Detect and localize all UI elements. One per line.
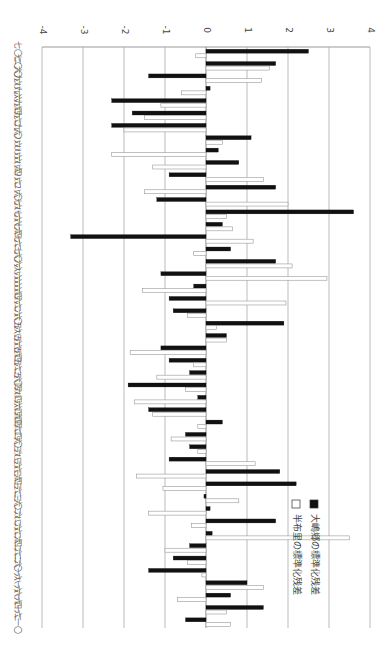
- bar-hanyu: [177, 598, 206, 602]
- bar-oshima: [206, 321, 284, 325]
- bar-oshima: [186, 618, 207, 622]
- bar-oshima: [206, 247, 231, 251]
- bar-hanyu: [206, 622, 231, 626]
- bar-hanyu: [206, 140, 222, 144]
- bar-oshima: [194, 284, 206, 288]
- bar-oshima: [169, 358, 206, 362]
- bar-oshima: [190, 544, 206, 548]
- legend-label: 大嶋郷の標準化残差: [310, 514, 321, 595]
- bar-oshima: [173, 556, 206, 560]
- bar-hanyu: [181, 91, 206, 95]
- bar-hanyu: [157, 375, 206, 379]
- bar-hanyu: [165, 548, 206, 552]
- axis-tick-label: -2: [120, 26, 130, 35]
- bar-hanyu: [202, 573, 206, 577]
- bar-oshima: [206, 259, 276, 263]
- bar-hanyu: [188, 561, 206, 565]
- bar-hanyu: [206, 326, 216, 330]
- bar-hanyu: [206, 264, 292, 268]
- axis-tick-label: 1: [243, 27, 253, 33]
- legend: 大嶋郷の標準化残差半布里の標準化残差: [292, 500, 321, 595]
- bar-hanyu: [206, 227, 233, 231]
- bar-oshima: [149, 408, 206, 412]
- bar-hanyu: [206, 610, 227, 614]
- bar-oshima: [206, 334, 227, 338]
- bar-hanyu: [206, 202, 288, 206]
- bar-oshima: [206, 519, 276, 523]
- bar-hanyu: [206, 585, 263, 589]
- bar-oshima: [206, 531, 212, 535]
- residual-bar-chart: -4-3-2-101234 七〇二七〇〇六九八六九六六九四六九二六九〇六八八六八…: [0, 0, 392, 671]
- bar-hanyu: [161, 103, 206, 107]
- bar-hanyu: [206, 79, 261, 83]
- bar-hanyu: [206, 66, 270, 70]
- bar-oshima: [173, 309, 206, 313]
- bar-hanyu: [130, 350, 206, 354]
- axis-tick-label: -1: [161, 26, 171, 35]
- bar-hanyu: [206, 239, 253, 243]
- bar-oshima: [128, 383, 206, 387]
- bar-hanyu: [206, 536, 350, 540]
- bar-oshima: [161, 272, 206, 276]
- bar-oshima: [206, 160, 239, 164]
- bar-hanyu: [206, 214, 227, 218]
- value-axis: -4-3-2-101234: [38, 26, 376, 35]
- bar-hanyu: [149, 511, 206, 515]
- bar-hanyu: [188, 313, 206, 317]
- bar-hanyu: [186, 388, 207, 392]
- bar-oshima: [71, 235, 206, 239]
- bar-hanyu: [198, 425, 206, 429]
- category-axis: 七〇二七〇〇六九八六九六六九四六九二六九〇六八八六八六六八四六八二六八〇六七八六…: [12, 41, 22, 634]
- bar-oshima: [112, 123, 206, 127]
- bar-hanyu: [196, 54, 206, 58]
- bar-hanyu: [136, 474, 206, 478]
- axis-tick-label: 3: [325, 27, 335, 33]
- bar-oshima: [190, 371, 206, 375]
- bar-oshima: [206, 420, 222, 424]
- bar-hanyu: [194, 252, 206, 256]
- axis-tick-label: 4: [366, 27, 376, 33]
- bar-hanyu: [206, 338, 227, 342]
- legend-swatch-black-icon: [310, 500, 318, 508]
- category-label: 六一〇: [13, 610, 23, 634]
- bar-hanyu: [198, 449, 206, 453]
- bar-oshima: [206, 136, 251, 140]
- bar-hanyu: [163, 486, 206, 490]
- bar-hanyu: [142, 289, 206, 293]
- bar-oshima: [206, 86, 210, 90]
- bar-oshima: [206, 62, 276, 66]
- bar-oshima: [206, 507, 210, 511]
- bar-hanyu: [124, 128, 206, 132]
- legend-swatch-white-icon: [292, 500, 300, 508]
- bar-hanyu: [134, 400, 206, 404]
- bar-oshima: [198, 395, 206, 399]
- bar-oshima: [112, 99, 206, 103]
- bar-oshima: [186, 432, 207, 436]
- bar-hanyu: [206, 462, 255, 466]
- bar-oshima: [206, 482, 296, 486]
- axis-tick-label: -3: [79, 26, 89, 35]
- bar-hanyu: [192, 524, 206, 528]
- bar-hanyu: [206, 499, 239, 503]
- bar-hanyu: [153, 412, 206, 416]
- bar-hanyu: [153, 165, 206, 169]
- bar-oshima: [190, 445, 206, 449]
- bar-oshima: [204, 494, 206, 498]
- axis-tick-label: -4: [38, 26, 48, 35]
- bar-oshima: [206, 148, 218, 152]
- bar-hanyu: [206, 276, 327, 280]
- legend-label: 半布里の標準化残差: [292, 514, 303, 595]
- bar-oshima: [206, 470, 280, 474]
- bar-hanyu: [206, 177, 263, 181]
- bar-oshima: [149, 568, 206, 572]
- bar-hanyu: [112, 153, 206, 157]
- bar-hanyu: [145, 190, 207, 194]
- axis-tick-label: 2: [284, 27, 294, 33]
- bar-oshima: [157, 198, 206, 202]
- bar-oshima: [206, 593, 231, 597]
- bar-oshima: [206, 210, 354, 214]
- bar-hanyu: [206, 301, 286, 305]
- bar-hanyu: [171, 437, 206, 441]
- bar-oshima: [149, 74, 206, 78]
- bar-oshima: [206, 49, 309, 53]
